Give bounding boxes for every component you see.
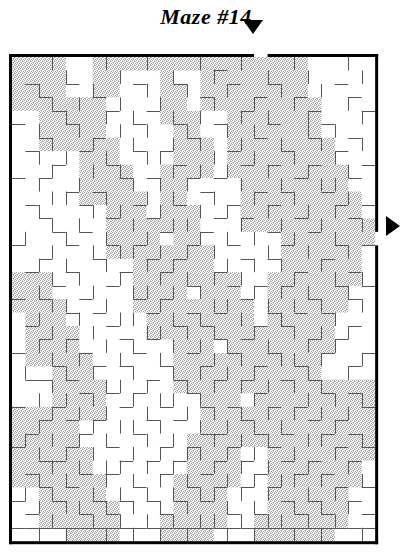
exit-arrow — [386, 216, 400, 236]
maze-container — [0, 0, 412, 554]
entrance-arrow — [243, 20, 263, 34]
maze-page: Maze #14 — [0, 0, 412, 554]
maze-grid[interactable] — [0, 0, 412, 554]
